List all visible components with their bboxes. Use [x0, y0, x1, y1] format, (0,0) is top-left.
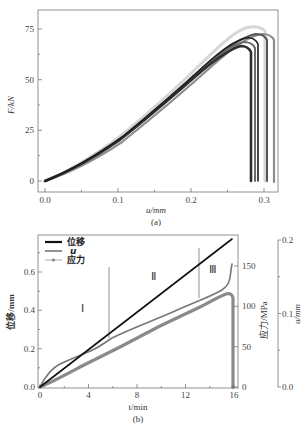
y-tick-right-b-1: 50: [242, 342, 252, 352]
curve-stress: [40, 294, 233, 387]
y-axis-label-right-b: 应力/MPa: [258, 301, 269, 339]
y-tick-right-b-3: 150: [242, 261, 256, 271]
x-tick-b-0: 0: [38, 390, 43, 400]
region-label-3: Ⅲ: [209, 263, 217, 275]
x-tick-b-3: 12: [181, 390, 190, 400]
y-axis-label-right2-b: u/mm: [292, 304, 302, 325]
y-tick-a-0: 0: [30, 176, 35, 186]
y-tick-right-b-0: 0: [242, 382, 247, 392]
figure: 0 25 50 75 0.0 0.1 0.2 0.3 u/mm F/kN (a): [0, 0, 307, 432]
y-axis-right2-b: [278, 240, 281, 387]
x-axis-b: [40, 384, 234, 388]
y-tick-a-3: 75: [25, 24, 35, 34]
panel-b: 0.0 0.2 0.4 0.6 0 50 100 150 应力/MPa 0.0 …: [5, 235, 302, 424]
x-tick-a-0: 0.0: [39, 195, 51, 205]
y-tick-b-3: 0.6: [24, 267, 36, 277]
x-tick-a-2: 0.2: [185, 195, 196, 205]
y-axis-label-a: F/kN: [6, 95, 16, 115]
region-label-1: Ⅰ: [81, 302, 84, 314]
y-axis-left-b: [38, 253, 42, 387]
legend-label-stress: 应力: [67, 254, 85, 265]
legend-marker-stress: [52, 258, 55, 261]
x-tick-a-3: 0.3: [258, 195, 270, 205]
x-tick-b-2: 8: [135, 390, 140, 400]
y-tick-a-1: 25: [25, 125, 35, 135]
panel-a: 0 25 50 75 0.0 0.1 0.2 0.3 u/mm F/kN (a): [6, 10, 278, 227]
y-tick-b-2: 0.4: [24, 305, 36, 315]
x-tick-a-1: 0.1: [112, 195, 123, 205]
y-tick-a-2: 50: [25, 75, 35, 85]
y-tick-b-0: 0.0: [24, 382, 36, 392]
region-label-2: Ⅱ: [151, 270, 156, 282]
caption-a: (a): [151, 217, 161, 227]
curves-a: [45, 27, 274, 182]
x-axis-label-b: t/min: [128, 402, 148, 412]
caption-b: (b): [133, 414, 144, 424]
stress-end-marker: [231, 385, 235, 389]
x-axis-a: [45, 188, 264, 192]
y-axis-a: [38, 29, 42, 181]
y-tick-right-b-2: 100: [242, 301, 256, 311]
x-tick-b-1: 4: [86, 390, 91, 400]
curve-u: [40, 264, 232, 387]
y-tick-right2-b-0: 0.0: [282, 382, 294, 392]
y-tick-right2-b-2: 0.2: [282, 235, 293, 245]
y-tick-b-1: 0.2: [24, 344, 35, 354]
x-axis-label-a: u/mm: [146, 205, 167, 215]
x-tick-b-4: 16: [230, 390, 240, 400]
y-axis-label-b: 位移/mm: [5, 294, 16, 330]
legend-b: 位移 u 应力: [45, 236, 85, 265]
plot-frame-a: [38, 10, 278, 192]
